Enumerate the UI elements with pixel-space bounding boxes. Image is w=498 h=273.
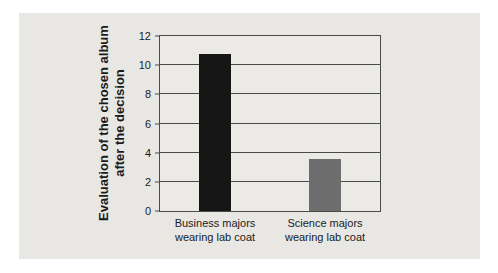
y-tick-label: 8 (145, 89, 151, 100)
y-tick-label: 6 (145, 118, 151, 129)
y-tick-label: 10 (139, 60, 151, 71)
bar-business-majors (199, 54, 231, 212)
y-axis-ticks: 024681012 (160, 36, 380, 211)
y-tick-mark (155, 123, 160, 124)
y-tick-mark (155, 94, 160, 95)
plot-area: 024681012 Business majors wearing lab co… (159, 35, 381, 212)
y-axis-title: Evaluation of the chosen album after the… (96, 25, 129, 221)
x-label-business-majors: Business majors wearing lab coat (175, 216, 256, 245)
y-tick-mark (155, 152, 160, 153)
y-tick-label: 4 (145, 147, 151, 158)
y-tick-label: 0 (145, 206, 151, 217)
y-tick-label: 12 (139, 31, 151, 42)
y-tick-mark (155, 181, 160, 182)
x-label-science-majors: Science majors wearing lab coat (285, 216, 365, 245)
chart-card: Evaluation of the chosen album after the… (19, 13, 480, 259)
bar-science-majors (309, 159, 341, 212)
y-tick-label: 2 (145, 176, 151, 187)
y-tick-mark (155, 36, 160, 37)
y-tick-mark (155, 65, 160, 66)
x-axis-labels: Business majors wearing lab coatScience … (160, 211, 380, 251)
